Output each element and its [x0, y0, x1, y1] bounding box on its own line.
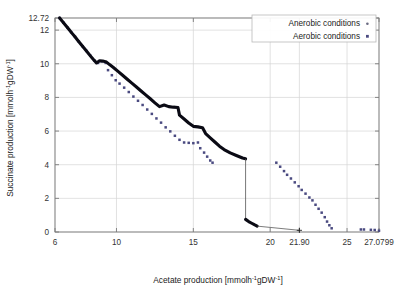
y-axis-title: Succinate production [mmolh-1gDW-1]: [5, 59, 15, 197]
legend-marker: [366, 35, 369, 38]
x-tick-label: 21.90: [289, 238, 310, 247]
x-tick-label: 25: [342, 238, 352, 247]
aerobic-point: [187, 142, 190, 145]
aerobic-point: [320, 211, 323, 214]
x-tick-label: 6: [53, 238, 58, 247]
legend: Anerobic conditionsAerobic conditions: [252, 15, 376, 42]
aerobic-point: [169, 130, 172, 133]
y-tick-label: 4: [44, 161, 49, 170]
aerobic-point: [360, 228, 363, 231]
aerobic-point: [317, 208, 320, 211]
aerobic-point: [373, 229, 376, 232]
aerobic-point: [118, 82, 121, 85]
aerobic-point: [114, 79, 117, 82]
x-tick-label: 20: [266, 238, 276, 247]
y-tick-label: 12.72: [29, 14, 50, 23]
y-tick-label: 6: [44, 127, 49, 136]
aerobic-point: [209, 159, 212, 162]
aerobic-point: [326, 220, 329, 223]
aerobic-point: [279, 165, 282, 168]
aerobic-point: [174, 135, 177, 138]
aerobic-point: [206, 155, 209, 158]
y-tick-label: 12: [40, 26, 50, 35]
aerobic-point: [192, 142, 195, 145]
aerobic-point: [123, 86, 126, 89]
aerobic-point: [137, 100, 140, 103]
aerobic-point: [164, 126, 167, 129]
y-tick-label: 10: [40, 60, 50, 69]
aerobic-point: [297, 185, 300, 188]
aerobic-point: [141, 104, 144, 107]
y-tick-label: 0: [44, 228, 49, 237]
figure-succinate-vs-acetate: 610152021.902527.0799 02468101212.72 Ane…: [0, 0, 396, 295]
aerobic-point: [132, 95, 135, 98]
aerobic-point: [199, 147, 202, 150]
aerobic-point: [300, 189, 303, 192]
x-tick-label: 27.0799: [364, 238, 394, 247]
aerobic-point: [128, 91, 131, 94]
aerobic-point: [370, 229, 373, 232]
aerobic-point: [160, 121, 163, 124]
aerobic-point: [308, 196, 311, 199]
aerobic-point: [183, 141, 186, 144]
aerobic-point: [107, 69, 110, 72]
aerobic-point: [304, 192, 307, 195]
svg-text:Acetate production [mmolh-1gD: Acetate production [mmolh-1gDW-1]: [153, 275, 282, 285]
aerobic-point: [286, 174, 289, 177]
legend-label: Anerobic conditions: [289, 19, 360, 28]
x-tick-label: 10: [112, 238, 122, 247]
y-tick-label: 8: [44, 93, 49, 102]
aerobic-point: [211, 161, 214, 164]
y-tick-label: 2: [44, 194, 49, 203]
aerobic-point: [378, 229, 381, 232]
aerobic-point: [330, 227, 333, 230]
x-axis-title: Acetate production [mmolh-1gDW-1]: [153, 275, 282, 285]
svg-text:Succinate production [mmolh-1: Succinate production [mmolh-1gDW-1]: [5, 59, 15, 197]
aerobic-point: [275, 161, 278, 164]
aerobic-point: [151, 113, 154, 116]
aerobic-point: [314, 203, 317, 206]
aerobic-point: [363, 228, 366, 231]
aerobic-point: [197, 141, 200, 144]
scatter-plot-canvas: 610152021.902527.0799 02468101212.72 Ane…: [0, 0, 396, 295]
legend-marker: [366, 23, 369, 26]
aerobic-point: [323, 216, 326, 219]
x-tick-label: 15: [189, 238, 199, 247]
aerobic-point: [311, 199, 314, 202]
aerobic-point: [146, 108, 149, 111]
aerobic-point: [178, 139, 181, 142]
aerobic-point: [203, 151, 206, 154]
plot-background: [0, 0, 396, 295]
aerobic-point: [283, 170, 286, 173]
aerobic-point: [294, 181, 297, 184]
aerobic-point: [155, 117, 158, 120]
aerobic-point: [290, 177, 293, 180]
aerobic-point: [111, 74, 114, 77]
aerobic-point: [328, 224, 331, 227]
legend-label: Aerobic conditions: [293, 32, 360, 41]
